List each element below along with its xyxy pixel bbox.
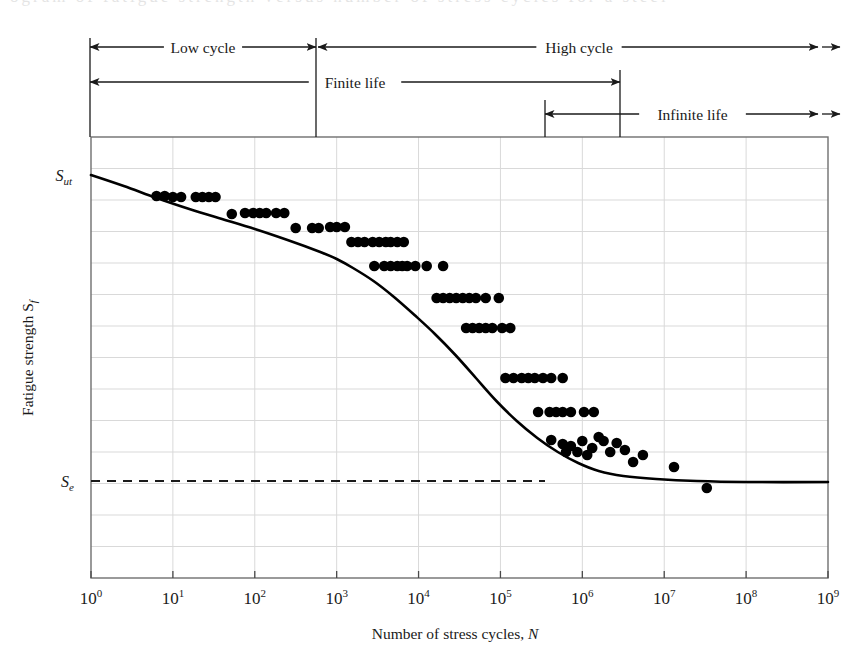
tick-base: 10 — [735, 589, 752, 608]
data-point — [313, 223, 324, 234]
data-point — [598, 436, 609, 447]
annotation-label-high-cycle: High cycle — [545, 39, 613, 56]
figure-canvas: ogram of fatigue strength versus number … — [0, 0, 848, 668]
data-point — [669, 462, 680, 473]
y-axis-strength-markers: SutSe — [55, 167, 74, 493]
tick-exponent: 5 — [506, 587, 512, 599]
data-point — [579, 407, 590, 418]
tick-exponent: 7 — [670, 587, 676, 599]
tick-base: 10 — [407, 589, 424, 608]
data-point — [421, 261, 432, 272]
tick-base: 10 — [325, 589, 342, 608]
axis-tick-labels: 100101102103104105106107108109 — [80, 587, 840, 608]
data-point — [505, 323, 516, 334]
y-axis-title-text: Fatigue strength S — [19, 303, 36, 416]
data-point — [176, 192, 187, 203]
x-axis-tick-label: 103 — [325, 587, 348, 608]
tick-exponent: 4 — [424, 587, 430, 599]
y-marker-subscript: ut — [63, 175, 73, 187]
data-point — [261, 208, 272, 219]
y-marker-se: Se — [61, 473, 74, 493]
annotation-label-finite-life: Finite life — [325, 74, 386, 91]
tick-base: 10 — [817, 589, 834, 608]
life-regime-annotations: Low cycleHigh cycleFinite lifeInfinite l… — [90, 38, 840, 137]
data-point — [605, 447, 616, 458]
x-axis-tick-label: 100 — [80, 587, 103, 608]
y-marker-base: S — [61, 473, 69, 490]
tick-base: 10 — [653, 589, 670, 608]
data-point — [702, 483, 713, 494]
x-axis-tick-label: 108 — [735, 587, 758, 608]
x-axis-tick-label: 109 — [817, 587, 840, 608]
tick-exponent: 9 — [834, 587, 840, 599]
data-point — [487, 323, 498, 334]
data-point — [369, 261, 380, 272]
x-axis-title-variable: N — [527, 625, 540, 642]
y-axis-title-group: Fatigue strength Sf — [19, 298, 39, 416]
data-point — [628, 457, 639, 468]
tick-exponent: 6 — [588, 587, 594, 599]
x-axis-tick-label: 102 — [244, 587, 267, 608]
tick-base: 10 — [162, 589, 179, 608]
y-marker-base: S — [55, 167, 63, 184]
tick-base: 10 — [244, 589, 261, 608]
data-point — [480, 293, 491, 304]
sn-fatigue-curve — [91, 175, 828, 482]
tick-base: 10 — [80, 589, 97, 608]
data-point — [577, 436, 588, 447]
data-point — [227, 209, 238, 220]
x-axis-tick-label: 107 — [653, 587, 676, 608]
x-axis-title-group: Number of stress cycles, N — [372, 625, 540, 642]
tick-base: 10 — [571, 589, 588, 608]
x-axis-tick-marks — [91, 571, 828, 578]
data-point — [611, 438, 622, 449]
data-point — [399, 237, 410, 248]
data-point — [546, 373, 557, 384]
data-point — [546, 435, 557, 446]
annotation-label-low-cycle: Low cycle — [171, 39, 236, 56]
data-point — [620, 445, 631, 456]
y-axis-title-subscript: f — [27, 298, 39, 303]
data-point — [410, 261, 421, 272]
tick-base: 10 — [489, 589, 506, 608]
fatigue-data-points — [151, 191, 712, 494]
tick-exponent: 0 — [97, 587, 103, 599]
data-point — [638, 450, 649, 461]
tick-exponent: 3 — [342, 587, 348, 599]
data-point — [290, 223, 301, 234]
tick-exponent: 2 — [261, 587, 267, 599]
data-point — [557, 373, 568, 384]
plot-gridlines — [91, 137, 828, 578]
y-marker-subscript: e — [69, 481, 74, 493]
data-point — [471, 293, 482, 304]
data-point — [340, 222, 351, 233]
data-point — [210, 192, 221, 203]
data-point — [566, 407, 577, 418]
x-axis-tick-label: 105 — [489, 587, 512, 608]
x-axis-title-text: Number of stress cycles, — [372, 625, 528, 642]
data-point — [494, 293, 505, 304]
tick-exponent: 8 — [752, 587, 758, 599]
data-point — [279, 208, 290, 219]
y-axis-title: Fatigue strength Sf — [19, 298, 39, 416]
x-axis-title: Number of stress cycles, N — [372, 625, 540, 642]
annotation-label-infinite-life: Infinite life — [657, 106, 727, 123]
tick-exponent: 1 — [179, 587, 185, 599]
x-axis-tick-label: 101 — [162, 587, 185, 608]
data-point — [589, 407, 600, 418]
data-point — [533, 407, 544, 418]
x-axis-tick-label: 106 — [571, 587, 594, 608]
data-point — [438, 261, 449, 272]
data-point — [587, 443, 598, 454]
data-point — [572, 447, 583, 458]
x-axis-tick-label: 104 — [407, 587, 430, 608]
y-marker-sut: Sut — [55, 167, 73, 187]
sn-curve-figure: Low cycleHigh cycleFinite lifeInfinite l… — [0, 0, 848, 668]
